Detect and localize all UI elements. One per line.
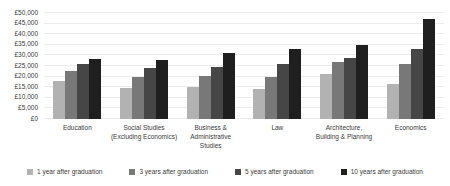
category-label-text: Business & Administrative Studies — [190, 123, 231, 150]
bar — [344, 58, 356, 119]
category-label-text: Law — [271, 123, 283, 150]
category-label: Business & Administrative Studies — [177, 123, 244, 150]
bar — [132, 77, 144, 119]
bar — [399, 64, 411, 119]
plot-row: £0£5,000£10,000£15,000£20,000£25,000£30,… — [0, 13, 450, 119]
category-label: Education — [44, 123, 111, 150]
legend-swatch-icon — [27, 169, 33, 175]
legend-swatch-icon — [235, 169, 241, 175]
bar-group — [187, 13, 235, 119]
bar — [387, 84, 399, 119]
y-tick-label: £45,000 — [15, 20, 39, 27]
bar — [120, 88, 132, 119]
bar — [187, 87, 199, 119]
bar — [156, 60, 168, 119]
bar — [77, 64, 89, 119]
legend-label: 3 years after graduation — [139, 168, 208, 175]
bar — [199, 76, 211, 119]
y-tick-label: £15,000 — [15, 84, 39, 91]
bar — [265, 77, 277, 119]
x-axis-spacer — [0, 123, 44, 150]
bar-group — [120, 13, 168, 119]
bar-groups — [44, 13, 444, 119]
legend: 1 year after graduation3 years after gra… — [0, 168, 450, 175]
category-label-text: Architecture, Building & Planning — [316, 123, 372, 150]
y-tick-label: £30,000 — [15, 52, 39, 59]
legend-label: 5 years after graduation — [245, 168, 314, 175]
category-label-text: Social Studies (Excluding Economics) — [111, 123, 177, 150]
legend-item: 10 years after graduation — [341, 168, 423, 175]
y-tick-label: £25,000 — [15, 63, 39, 70]
bar-chart: £0£5,000£10,000£15,000£20,000£25,000£30,… — [0, 0, 450, 186]
bar — [144, 68, 156, 119]
bar-group — [387, 13, 435, 119]
bar — [211, 67, 223, 119]
bar — [89, 59, 101, 119]
legend-item: 1 year after graduation — [27, 168, 102, 175]
bar — [320, 74, 332, 119]
category-label: Architecture, Building & Planning — [311, 123, 378, 150]
y-axis: £0£5,000£10,000£15,000£20,000£25,000£30,… — [0, 13, 44, 119]
bar-group — [53, 13, 101, 119]
plot-area — [44, 13, 444, 119]
category-label: Law — [244, 123, 311, 150]
legend-item: 3 years after graduation — [129, 168, 208, 175]
legend-label: 10 years after graduation — [351, 168, 423, 175]
category-label: Social Studies (Excluding Economics) — [111, 123, 178, 150]
bar-group — [320, 13, 368, 119]
bar-group — [253, 13, 301, 119]
bar — [253, 89, 265, 119]
y-tick-label: £0 — [31, 116, 38, 123]
category-label-text: Education — [63, 123, 92, 150]
bar — [411, 49, 423, 119]
bar — [289, 49, 301, 119]
bar — [277, 64, 289, 119]
bar — [53, 81, 65, 119]
legend-item: 5 years after graduation — [235, 168, 314, 175]
x-axis-labels-row: EducationSocial Studies (Excluding Econo… — [0, 123, 450, 150]
category-label: Economics — [377, 123, 444, 150]
y-tick-label: £20,000 — [15, 73, 39, 80]
category-label-text: Economics — [395, 123, 427, 150]
y-tick-label: £5,000 — [18, 105, 38, 112]
legend-swatch-icon — [129, 169, 135, 175]
y-tick-label: £50,000 — [15, 10, 39, 17]
bar — [423, 19, 435, 119]
y-tick-label: £40,000 — [15, 31, 39, 38]
y-tick-label: £10,000 — [15, 95, 39, 102]
bar — [65, 71, 77, 119]
x-axis-labels: EducationSocial Studies (Excluding Econo… — [44, 123, 444, 150]
bar — [332, 62, 344, 119]
legend-label: 1 year after graduation — [37, 168, 102, 175]
bar — [356, 45, 368, 119]
legend-swatch-icon — [341, 169, 347, 175]
y-tick-label: £35,000 — [15, 42, 39, 49]
bar — [223, 53, 235, 119]
